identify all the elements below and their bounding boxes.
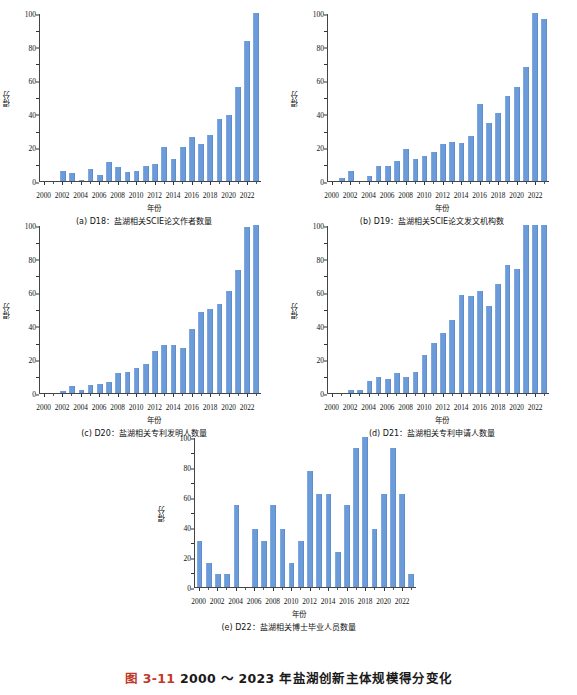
bar <box>523 67 529 181</box>
y-axis-title-e: 得分 <box>155 438 168 588</box>
x-tick-label: 2014 <box>166 191 181 200</box>
y-tick-label: 60 <box>317 289 325 298</box>
bar <box>235 87 241 181</box>
bar-slot <box>86 14 95 181</box>
x-tick-minor <box>238 394 239 396</box>
bar <box>399 494 405 587</box>
bar <box>79 180 85 181</box>
x-axis-title-c: 年份 <box>20 414 288 425</box>
x-tick-major <box>291 588 292 591</box>
bar-series-d <box>328 226 549 393</box>
bar <box>413 159 419 181</box>
y-axis-ticks-b: 020406080100 <box>301 14 327 182</box>
bar <box>316 494 322 587</box>
bar-slot <box>58 226 67 393</box>
bar-slot <box>223 438 232 587</box>
plot-canvas-d <box>327 226 549 394</box>
bar-slot <box>370 438 379 587</box>
x-tick-label: 2000 <box>324 191 339 200</box>
x-tick-major <box>192 394 193 397</box>
x-tick-label: 2020 <box>376 597 391 606</box>
x-tick-minor <box>411 588 412 590</box>
bar-series-c <box>40 226 261 393</box>
bar-slot <box>324 438 333 587</box>
bar <box>207 309 213 394</box>
y-tick-label: 100 <box>25 10 36 19</box>
y-tick-label: 60 <box>184 494 192 503</box>
bar-slot <box>296 438 305 587</box>
bar <box>459 295 465 393</box>
bar <box>198 144 204 181</box>
bar-slot <box>512 14 521 181</box>
bar-slot <box>232 438 241 587</box>
x-tick-label: 2004 <box>73 403 88 412</box>
x-axis-ticks-b <box>327 182 576 191</box>
y-axis-title-b: 得分 <box>288 14 301 182</box>
y-tick-label: 0 <box>32 178 36 187</box>
bar-slot <box>150 226 159 393</box>
bar <box>459 143 465 181</box>
x-tick-minor <box>226 588 227 590</box>
x-axis-ticks-d <box>327 394 576 403</box>
bar <box>541 19 547 181</box>
x-tick-label: 2016 <box>472 403 487 412</box>
bar <box>372 529 378 587</box>
bar-slot <box>407 438 416 587</box>
bar-slot <box>141 14 150 181</box>
bar-slot <box>206 14 215 181</box>
bar <box>440 144 446 181</box>
chart-e: 得分02040608010020002002200420062008201020… <box>155 438 422 632</box>
bar <box>97 175 103 181</box>
x-tick-label: 2016 <box>184 403 199 412</box>
x-tick-minor <box>378 182 379 184</box>
x-tick-major <box>535 394 536 397</box>
bar-slot <box>484 14 493 181</box>
x-tick-major <box>173 394 174 397</box>
x-tick-label: 2000 <box>36 403 51 412</box>
bar <box>505 265 511 393</box>
x-tick-major <box>517 394 518 397</box>
bar <box>348 390 354 393</box>
x-tick-major <box>424 182 425 185</box>
bar-slot <box>160 14 169 181</box>
y-tick-label: 80 <box>184 464 192 473</box>
y-axis-title-d: 得分 <box>288 226 301 394</box>
bar <box>523 225 529 393</box>
x-tick-label: 2010 <box>284 597 299 606</box>
x-tick-label: 2000 <box>324 403 339 412</box>
bar-slot <box>503 14 512 181</box>
bar-slot <box>420 14 429 181</box>
subplot-caption-a: (a) D18：盐湖相关SCIE论文作者数量 <box>0 215 288 226</box>
bar <box>413 372 419 393</box>
x-tick-label: 2014 <box>166 403 181 412</box>
bar <box>376 377 382 393</box>
bar-slot <box>206 226 215 393</box>
y-axis-title-text: 得分 <box>156 505 167 522</box>
bar <box>235 270 241 393</box>
bar-slot <box>356 226 365 393</box>
bar <box>197 541 203 588</box>
x-tick-label: 2014 <box>454 403 469 412</box>
bar-slot <box>337 226 346 393</box>
bar <box>161 345 167 393</box>
bar-slot <box>233 226 242 393</box>
bar-slot <box>342 438 351 587</box>
bar-slot <box>540 14 549 181</box>
bar <box>134 368 140 393</box>
bar-slot <box>540 226 549 393</box>
x-tick-minor <box>53 394 54 396</box>
x-tick-major <box>155 394 156 397</box>
x-tick-minor <box>71 394 72 396</box>
x-tick-label: 2006 <box>247 597 262 606</box>
y-tick-label: 60 <box>317 77 325 86</box>
y-tick-label: 80 <box>29 255 37 264</box>
bar-slot <box>77 226 86 393</box>
x-tick-major <box>217 588 218 591</box>
x-tick-label: 2016 <box>184 191 199 200</box>
x-tick-major <box>192 182 193 185</box>
x-tick-major <box>406 394 407 397</box>
x-tick-major <box>387 182 388 185</box>
x-tick-major <box>99 394 100 397</box>
x-tick-minor <box>489 394 490 396</box>
x-tick-minor <box>526 394 527 396</box>
